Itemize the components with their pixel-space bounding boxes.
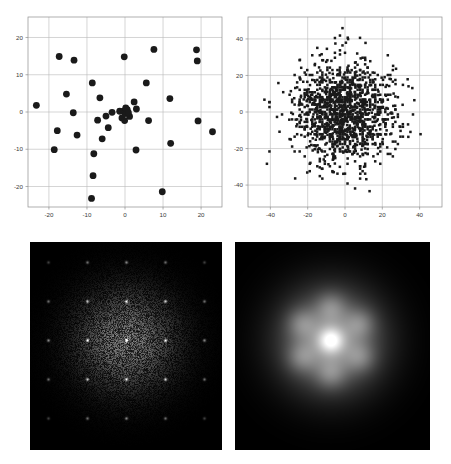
data-point xyxy=(407,123,410,126)
data-point xyxy=(74,132,81,139)
data-point xyxy=(344,106,347,109)
data-point xyxy=(311,98,314,101)
data-point xyxy=(349,71,352,74)
data-point xyxy=(325,113,328,116)
data-point xyxy=(356,153,359,156)
data-point xyxy=(356,107,359,110)
data-point xyxy=(387,54,390,57)
data-point xyxy=(386,146,389,149)
data-point xyxy=(361,91,364,94)
data-point xyxy=(339,89,342,92)
data-point xyxy=(352,139,355,142)
data-point xyxy=(346,130,349,133)
data-point xyxy=(359,177,362,180)
ytick-label: 20 xyxy=(16,34,23,41)
data-point xyxy=(385,84,388,87)
data-point xyxy=(341,126,344,129)
data-point xyxy=(412,113,415,116)
data-point xyxy=(388,85,391,88)
data-point xyxy=(365,178,368,181)
data-point xyxy=(392,140,395,143)
data-point xyxy=(339,140,342,143)
data-point xyxy=(382,138,385,141)
data-point xyxy=(319,69,322,72)
data-point xyxy=(366,139,369,142)
ytick-label: -40 xyxy=(234,181,244,188)
data-point xyxy=(371,133,374,136)
data-point xyxy=(311,121,314,124)
data-point xyxy=(316,165,319,168)
data-point xyxy=(378,124,381,127)
data-point xyxy=(354,76,357,79)
data-point xyxy=(316,110,319,113)
data-point xyxy=(51,146,58,153)
data-point xyxy=(374,160,377,163)
data-point xyxy=(344,150,347,153)
data-point xyxy=(364,118,367,121)
data-point xyxy=(303,106,306,109)
data-point xyxy=(362,154,365,157)
data-point xyxy=(402,84,405,87)
data-point xyxy=(105,124,112,131)
data-point xyxy=(316,84,319,87)
data-point xyxy=(387,98,390,101)
data-point xyxy=(344,52,347,55)
data-point xyxy=(324,130,327,133)
data-point xyxy=(351,79,354,82)
data-point xyxy=(374,113,377,116)
data-point xyxy=(331,113,334,116)
data-point xyxy=(361,143,364,146)
data-point xyxy=(302,98,305,101)
data-point xyxy=(99,135,106,142)
ytick-label: 10 xyxy=(16,71,23,78)
data-point xyxy=(321,78,324,81)
data-point xyxy=(349,111,352,114)
data-point xyxy=(325,116,328,119)
data-point xyxy=(308,111,311,114)
data-point xyxy=(319,96,322,99)
data-point xyxy=(336,84,339,87)
data-point xyxy=(309,127,312,130)
data-point xyxy=(359,118,362,121)
data-point xyxy=(350,105,353,108)
data-point xyxy=(344,140,347,143)
data-point xyxy=(306,171,309,174)
data-point xyxy=(336,121,339,124)
data-point xyxy=(341,128,344,131)
data-point xyxy=(366,108,369,111)
data-point xyxy=(329,148,332,151)
data-point xyxy=(349,79,352,82)
data-point xyxy=(344,116,347,119)
data-point xyxy=(359,133,362,136)
data-point xyxy=(309,140,312,143)
data-point xyxy=(339,135,342,138)
data-point xyxy=(377,94,380,97)
data-point xyxy=(407,136,410,139)
data-point xyxy=(359,155,362,158)
data-point xyxy=(374,101,377,104)
xtick-label: 40 xyxy=(416,211,423,218)
data-point xyxy=(291,101,294,104)
data-point xyxy=(360,101,363,104)
data-point xyxy=(288,118,291,121)
data-point xyxy=(394,148,397,151)
data-point xyxy=(314,63,317,66)
data-point xyxy=(326,130,329,133)
data-point xyxy=(316,71,319,74)
data-point xyxy=(359,167,362,170)
data-point xyxy=(321,89,324,92)
data-point xyxy=(392,80,395,83)
data-point xyxy=(322,59,325,62)
data-point xyxy=(334,121,337,124)
data-point xyxy=(361,121,364,124)
data-point xyxy=(394,79,397,82)
data-point xyxy=(368,84,371,87)
data-point xyxy=(116,108,123,115)
data-point xyxy=(321,81,324,84)
data-point xyxy=(352,136,355,139)
data-point xyxy=(364,42,367,45)
data-point xyxy=(306,69,309,72)
data-point xyxy=(399,135,402,138)
data-point xyxy=(366,153,369,156)
data-point xyxy=(369,101,372,104)
